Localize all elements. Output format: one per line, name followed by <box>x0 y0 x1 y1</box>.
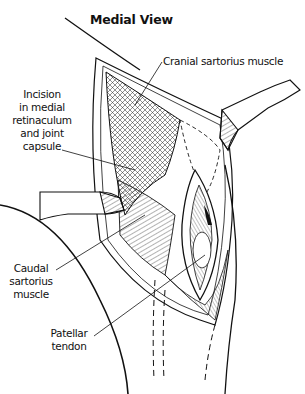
label-patellar-line: tendon <box>45 340 93 353</box>
medial-view-figure: Medial View Cranial sartorius muscle Inc… <box>0 0 305 394</box>
label-caudal-line: sartorius <box>2 275 60 288</box>
label-caudal-sartorius: Caudal sartorius muscle <box>2 262 60 301</box>
label-patellar-line: Patellar <box>45 327 93 340</box>
label-incision-line: and joint <box>6 127 78 140</box>
label-incision-line: in medial <box>6 101 78 114</box>
label-incision: Incision in medial retinaculum and joint… <box>6 88 78 153</box>
caudal-sartorius-muscle <box>118 180 175 275</box>
retractor-upper-right <box>220 80 300 150</box>
label-caudal-line: muscle <box>2 288 60 301</box>
label-incision-line: Incision <box>6 88 78 101</box>
figure-title: Medial View <box>90 12 173 27</box>
label-incision-line: capsule <box>6 140 78 153</box>
label-incision-line: retinaculum <box>6 114 78 127</box>
label-caudal-line: Caudal <box>2 262 60 275</box>
retractor-left <box>40 192 124 220</box>
opened-joint-incision <box>182 170 218 300</box>
label-patellar-tendon: Patellar tendon <box>45 327 93 353</box>
label-cranial-sartorius: Cranial sartorius muscle <box>163 55 283 68</box>
